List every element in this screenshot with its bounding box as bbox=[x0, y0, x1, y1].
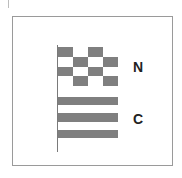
flag-c-stripe bbox=[58, 122, 118, 130]
flag-n-square bbox=[88, 47, 103, 57]
flag-n-square bbox=[58, 67, 73, 77]
flag-n-square bbox=[73, 76, 88, 86]
flag-n-square bbox=[58, 76, 73, 86]
flag-n-square bbox=[103, 76, 118, 86]
flag-c-stripe bbox=[58, 130, 118, 138]
flag-n-square bbox=[103, 47, 118, 57]
flag-n-square bbox=[88, 76, 103, 86]
flag-n-square bbox=[88, 57, 103, 67]
flag-n-square bbox=[103, 57, 118, 67]
flag-n-square bbox=[73, 47, 88, 57]
flag-c-label: C bbox=[133, 111, 143, 127]
flag-n-square bbox=[88, 67, 103, 77]
flag-c-stripe bbox=[58, 97, 118, 105]
flag-n-square bbox=[58, 47, 73, 57]
flag-n-square bbox=[73, 67, 88, 77]
flag-n-square bbox=[73, 57, 88, 67]
flag-c-stripe bbox=[58, 105, 118, 113]
edge-tick-mark bbox=[8, 0, 9, 8]
flag-n-square bbox=[58, 57, 73, 67]
flag-c-striped bbox=[58, 97, 118, 138]
flag-n-label: N bbox=[133, 59, 143, 75]
flag-n-checkered bbox=[58, 47, 118, 86]
flag-c-stripe bbox=[58, 113, 118, 121]
diagram-frame bbox=[12, 16, 173, 166]
flag-n-square bbox=[103, 67, 118, 77]
